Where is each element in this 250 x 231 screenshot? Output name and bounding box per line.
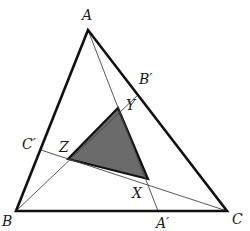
cevian-a-a-prime xyxy=(88,30,158,211)
label-a: A xyxy=(80,7,92,23)
label-z: Z xyxy=(58,139,69,155)
label-a-prime: A′ xyxy=(154,215,170,231)
label-y: Y xyxy=(126,97,137,113)
cevian-triangle-diagram: A B C A′ B′ C′ X Y Z xyxy=(0,0,250,231)
label-c-prime: C′ xyxy=(22,136,37,152)
inner-triangle-xyz xyxy=(68,108,148,179)
label-x: X xyxy=(131,185,143,201)
label-b: B xyxy=(1,213,12,229)
label-c: C xyxy=(232,211,243,227)
label-b-prime: B′ xyxy=(138,71,153,87)
